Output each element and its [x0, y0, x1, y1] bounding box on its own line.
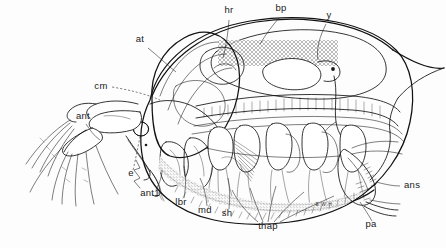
thap-1-lobe	[208, 127, 233, 170]
label-lbr: lbr	[175, 196, 186, 207]
thap-4-lobe	[302, 123, 328, 170]
label-y: y	[326, 9, 331, 20]
label-ant1: ant1	[140, 187, 160, 198]
label-thap: thap	[258, 220, 278, 231]
label-ant: ant	[76, 110, 90, 121]
thap-3-lobe	[266, 123, 292, 170]
label-cm: cm	[94, 80, 107, 91]
label-sh: sh	[222, 207, 233, 218]
label-e: e	[128, 167, 134, 178]
label-pa: pa	[365, 218, 377, 229]
figure-canvas: at hr bp y cm ant e ant1 lbr md sh thap …	[0, 0, 446, 248]
artist-signature: E.W.H.	[315, 201, 334, 207]
label-md: md	[198, 204, 212, 215]
embryo-nucleus	[331, 67, 335, 71]
label-bp: bp	[275, 2, 286, 13]
daphnia-diagram: at hr bp y cm ant e ant1 lbr md sh thap …	[0, 0, 446, 248]
thap-5-lobe	[340, 125, 366, 172]
label-hr: hr	[224, 4, 233, 15]
label-ans: ans	[404, 179, 420, 190]
ocellus	[145, 144, 148, 147]
label-at: at	[136, 33, 145, 44]
